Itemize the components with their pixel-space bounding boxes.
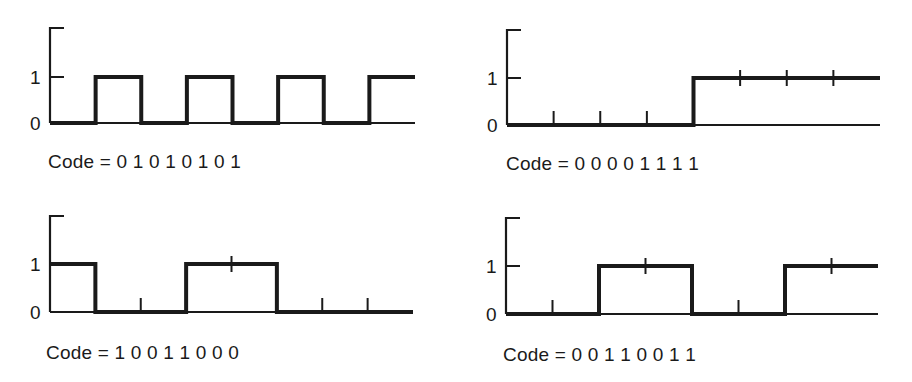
waveform-signal — [506, 266, 878, 314]
waveform-signal — [507, 78, 880, 125]
y-label-one: 1 — [30, 67, 41, 88]
waveform-panel-4: 10 — [486, 218, 878, 325]
y-label-zero: 0 — [486, 304, 497, 325]
y-label-zero: 0 — [30, 302, 41, 323]
y-label-zero: 0 — [30, 113, 41, 134]
waveform-diagram: 10 10 10 10 — [0, 0, 912, 382]
waveform-panel-2: 10 — [487, 30, 880, 136]
waveform-panel-3: 10 — [30, 216, 413, 323]
code-label-4: Code = 0 0 1 1 0 0 1 1 — [503, 344, 696, 366]
code-label-1: Code = 0 1 0 1 0 1 0 1 — [48, 151, 241, 173]
waveform-signal — [50, 77, 415, 123]
y-label-zero: 0 — [487, 115, 498, 136]
code-label-3: Code = 1 0 0 1 1 0 0 0 — [46, 342, 239, 364]
code-label-2: Code = 0 0 0 0 1 1 1 1 — [506, 153, 699, 175]
y-label-one: 1 — [487, 68, 498, 89]
y-label-one: 1 — [486, 256, 497, 277]
y-axis — [50, 28, 64, 123]
y-label-one: 1 — [30, 254, 41, 275]
waveform-panel-1: 10 — [30, 28, 415, 134]
